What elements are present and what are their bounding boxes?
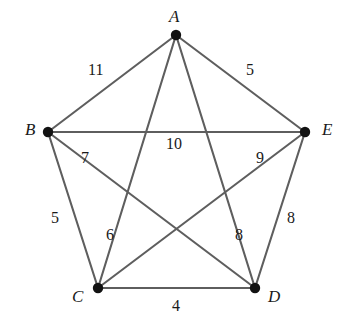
graph-canvas: [0, 0, 346, 329]
edge-a-c: [98, 35, 176, 288]
edge-b-d: [48, 132, 255, 288]
edge-weight-d-e: 8: [287, 210, 295, 226]
edge-c-e: [98, 132, 305, 288]
edge-weight-c-d: 4: [172, 298, 180, 314]
vertex-label-a: A: [169, 8, 179, 25]
edge-weight-b-e: 10: [166, 136, 182, 152]
vertex-label-c: C: [72, 288, 83, 305]
edge-weight-a-c: 6: [106, 227, 114, 243]
edge-weight-b-d: 7: [81, 150, 89, 166]
edge-weight-a-e: 5: [246, 62, 254, 78]
vertex-label-b: B: [25, 121, 35, 138]
vertex-dot-c: [93, 283, 103, 293]
graph-diagram: ABCDE 115107958684: [0, 0, 346, 329]
vertex-label-d: D: [268, 288, 280, 305]
edge-a-e: [176, 35, 305, 132]
vertex-dot-e: [300, 127, 310, 137]
vertex-dot-a: [171, 30, 181, 40]
edge-weight-a-d: 8: [235, 227, 243, 243]
edge-a-b: [48, 35, 176, 132]
vertex-dot-d: [250, 283, 260, 293]
vertex-label-e: E: [322, 121, 332, 138]
edge-a-d: [176, 35, 255, 288]
edge-weight-a-b: 11: [88, 62, 103, 78]
vertex-dot-b: [43, 127, 53, 137]
edge-weight-c-e: 9: [256, 150, 264, 166]
edge-weight-b-c: 5: [51, 210, 59, 226]
